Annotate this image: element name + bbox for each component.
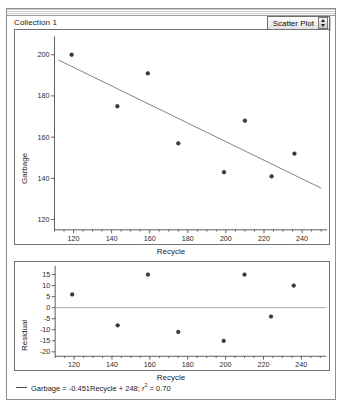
y-tick-label: 15 <box>42 271 50 279</box>
data-point[interactable] <box>292 284 296 288</box>
data-point[interactable] <box>115 104 119 108</box>
x-tick-label: 120 <box>68 234 80 243</box>
x-tick-label: 220 <box>258 234 270 243</box>
x-tick-label: 160 <box>144 361 156 369</box>
residual-x-axis-title: Recycle <box>7 373 335 382</box>
x-tick-label: 140 <box>106 234 118 243</box>
data-point[interactable] <box>116 323 120 327</box>
data-point[interactable] <box>269 315 273 319</box>
residual-y-axis-title: Residual <box>20 320 29 351</box>
y-tick-label: -10 <box>40 326 50 334</box>
data-point[interactable] <box>176 330 180 334</box>
regression-fit-line <box>58 60 321 188</box>
x-tick-label: 200 <box>220 234 232 243</box>
y-tick-label: -15 <box>40 337 50 345</box>
x-tick-label: 240 <box>296 234 308 243</box>
line-dash-icon <box>16 387 27 388</box>
x-tick-label: 220 <box>257 361 269 369</box>
y-tick-label: 180 <box>38 91 50 100</box>
data-point[interactable] <box>222 170 226 174</box>
regression-equation: Garbage = -0.451Recycle + 248; r <box>31 384 144 393</box>
data-point[interactable] <box>70 53 74 57</box>
y-tick-label: 200 <box>38 50 50 59</box>
y-tick-label: 0 <box>46 304 50 312</box>
scatter-y-axis-title: Garbage <box>20 153 29 184</box>
data-point[interactable] <box>243 273 247 277</box>
scatter-plot-panel[interactable]: 120140160180200120140160180200220240 <box>14 29 330 245</box>
y-tick-label: -5 <box>44 315 50 323</box>
scatter-plot-window-app: Collection 1 Scatter Plot 12014016018020… <box>0 0 342 406</box>
x-tick-label: 180 <box>182 234 194 243</box>
x-tick-label: 140 <box>106 361 118 369</box>
y-tick-label: 120 <box>38 215 50 224</box>
y-tick-label: 10 <box>42 282 50 290</box>
r-squared-value: = 0.70 <box>147 384 170 393</box>
x-tick-label: 200 <box>220 361 232 369</box>
up-down-stepper-icon[interactable] <box>318 17 328 29</box>
y-tick-label: 140 <box>38 174 50 183</box>
plot-body: 120140160180200120140160180200220240 Gar… <box>7 29 335 400</box>
x-tick-label: 240 <box>295 361 307 369</box>
regression-legend[interactable]: Garbage = -0.451Recycle + 248; r2 = 0.70 <box>16 382 171 393</box>
data-point[interactable] <box>176 141 180 145</box>
plot-window: Collection 1 Scatter Plot 12014016018020… <box>6 8 336 400</box>
data-point[interactable] <box>270 174 274 178</box>
data-point[interactable] <box>243 119 247 123</box>
y-tick-label: -20 <box>40 348 50 356</box>
data-point[interactable] <box>70 293 74 297</box>
residual-plot-canvas[interactable]: 151050-5-10-15-20120140160180200220240 <box>15 262 329 370</box>
plot-type-label: Scatter Plot <box>273 19 318 28</box>
plot-type-dropdown[interactable]: Scatter Plot <box>267 16 330 30</box>
scatter-plot-canvas[interactable]: 120140160180200120140160180200220240 <box>15 30 329 244</box>
window-titlebar[interactable] <box>7 9 335 16</box>
x-tick-label: 180 <box>182 361 194 369</box>
y-tick-label: 5 <box>46 293 50 301</box>
residual-plot-panel[interactable]: 151050-5-10-15-20120140160180200220240 <box>14 261 330 371</box>
x-tick-label: 160 <box>144 234 156 243</box>
data-point[interactable] <box>146 273 150 277</box>
regression-equation-text: Garbage = -0.451Recycle + 248; r2 = 0.70 <box>31 382 171 393</box>
y-tick-label: 160 <box>38 133 50 142</box>
data-point[interactable] <box>293 152 297 156</box>
data-point[interactable] <box>222 339 226 343</box>
collection-label: Collection 1 <box>14 18 57 27</box>
x-tick-label: 120 <box>68 361 80 369</box>
data-point[interactable] <box>146 71 150 75</box>
scatter-x-axis-title: Recycle <box>7 247 335 256</box>
